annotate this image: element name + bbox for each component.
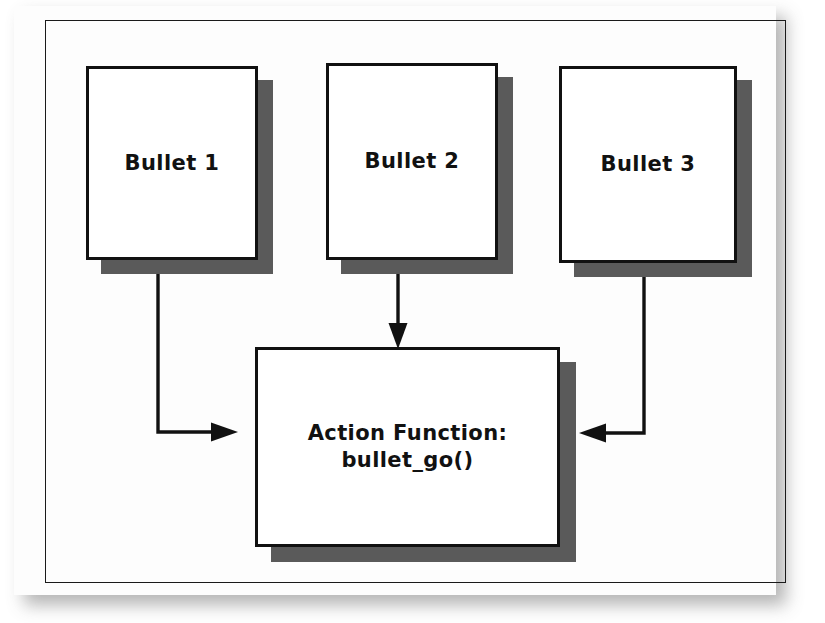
node-bullet-3-label: Bullet 3 — [601, 151, 696, 178]
node-action-function-label-line1: Action Function: — [308, 421, 508, 445]
node-bullet-1-face: Bullet 1 — [86, 66, 258, 260]
node-action-function-label: Action Function: bullet_go() — [308, 420, 508, 474]
arrow-bullet3-path — [606, 266, 644, 433]
node-bullet-3[interactable]: Bullet 3 — [559, 66, 737, 263]
node-bullet-2-face: Bullet 2 — [326, 63, 498, 260]
node-bullet-2[interactable]: Bullet 2 — [326, 63, 498, 260]
node-action-function[interactable]: Action Function: bullet_go() — [255, 347, 560, 547]
node-action-function-face: Action Function: bullet_go() — [255, 347, 560, 547]
node-action-function-label-line2: bullet_go() — [341, 448, 473, 472]
node-bullet-1-label: Bullet 1 — [125, 150, 220, 177]
scanned-page-sheet: Bullet 1 Bullet 2 Bullet 3 Action Functi… — [14, 6, 776, 595]
arrow-bullet3-head — [579, 424, 606, 443]
node-bullet-2-label: Bullet 2 — [365, 148, 460, 175]
node-bullet-3-face: Bullet 3 — [559, 66, 737, 263]
diagram-screenshot: Bullet 1 Bullet 2 Bullet 3 Action Functi… — [0, 0, 825, 623]
node-bullet-1[interactable]: Bullet 1 — [86, 66, 258, 260]
